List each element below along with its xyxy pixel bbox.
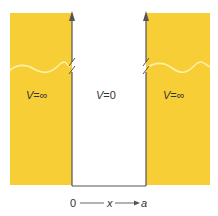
left-wave-break (10, 62, 70, 72)
axis-arrow-icon (134, 201, 140, 206)
middle-potential-label: V=0 (96, 90, 116, 101)
right-potential-label: V=∞ (163, 90, 185, 101)
right-wave-break (148, 62, 210, 72)
right-arrow-icon (143, 11, 149, 21)
middle-potential-value: 0 (110, 89, 116, 101)
right-potential-value: ∞ (177, 89, 185, 101)
axis-end-label: a (141, 198, 147, 209)
axis-start-label: 0 (70, 198, 76, 209)
left-potential-value: ∞ (40, 89, 48, 101)
left-potential-label: V=∞ (26, 90, 48, 101)
axis-variable-label: x (107, 198, 113, 209)
well-diagram (0, 0, 218, 216)
left-arrow-icon (69, 11, 75, 21)
